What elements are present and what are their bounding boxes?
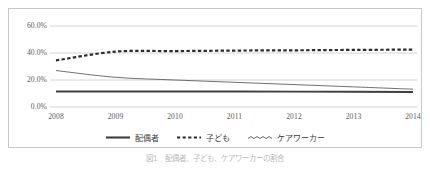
legend-item-careworker[interactable]: ケアワーカー [247, 132, 325, 143]
x-axis-tick-label: 2013 [332, 112, 376, 121]
figure-root: 0.0%20.0%40.0%60.0% 20082009201020112012… [0, 0, 430, 169]
series-line [56, 91, 413, 92]
y-axis-tick-label: 40.0% [9, 48, 47, 57]
x-axis-tick-label: 2014 [391, 112, 430, 121]
legend-item-children[interactable]: 子ども [176, 132, 230, 143]
x-axis-tick-label: 2010 [153, 112, 197, 121]
legend-label-children: 子ども [206, 132, 230, 143]
x-axis-tick-label: 2008 [34, 112, 78, 121]
legend-label-careworker: ケアワーカー [277, 132, 325, 143]
x-axis-tick-label: 2011 [213, 112, 257, 121]
legend-item-spouse[interactable]: 配偶者 [105, 132, 159, 143]
chart-legend: 配偶者 子ども ケアワーカー [9, 132, 421, 143]
chart-frame: 0.0%20.0%40.0%60.0% 20082009201020112012… [8, 8, 422, 148]
gridlines [50, 26, 417, 107]
dashed-line-marker [176, 133, 202, 142]
solid-line-marker [105, 133, 131, 142]
x-axis-tick-label: 2012 [272, 112, 316, 121]
series-layer [56, 50, 413, 92]
figure-caption: 図1 配偶者、子ども、ケアワーカーの割合 [0, 152, 430, 163]
y-axis-tick-label: 20.0% [9, 75, 47, 84]
thin-line-marker [247, 133, 273, 142]
y-axis-tick-label: 60.0% [9, 21, 47, 30]
series-line [56, 50, 413, 61]
y-axis-tick-label: 0.0% [9, 102, 47, 111]
chart-canvas [9, 9, 421, 147]
plot-area: 0.0%20.0%40.0%60.0% 20082009201020112012… [9, 9, 421, 147]
legend-label-spouse: 配偶者 [135, 132, 159, 143]
x-axis-tick-label: 2009 [94, 112, 138, 121]
